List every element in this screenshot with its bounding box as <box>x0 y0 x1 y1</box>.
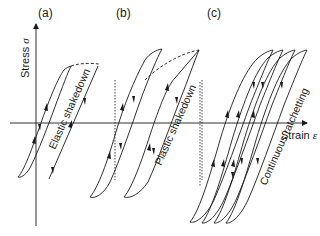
panel-label-c: (c) <box>207 6 221 20</box>
plastic-shakedown-label: Plastic shakedown <box>152 82 198 166</box>
stress-axis-label: Stress σ <box>19 38 31 78</box>
panel-label-a: (a) <box>38 6 53 20</box>
panel-label-b: (b) <box>116 6 131 20</box>
panel-a-elastic-shakedown: Elastic shakedown <box>18 63 99 179</box>
stress-strain-diagram: Stress σ Strain ε (a) (b) (c) Elastic sh… <box>0 0 320 236</box>
svg-text:Stress σ: Stress σ <box>19 38 31 78</box>
elastic-shakedown-label: Elastic shakedown <box>46 66 92 150</box>
